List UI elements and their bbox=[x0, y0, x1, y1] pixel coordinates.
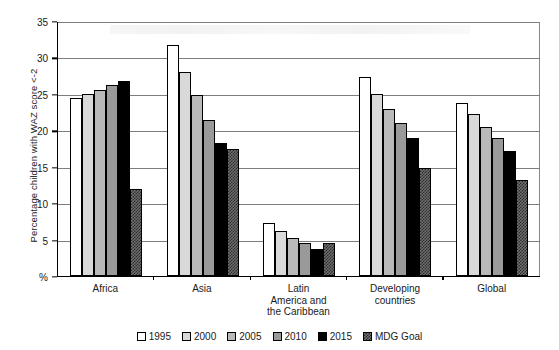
legend-label: MDG Goal bbox=[375, 331, 422, 342]
bar[interactable] bbox=[504, 151, 516, 276]
y-tick-mark bbox=[52, 203, 57, 204]
x-axis-label: Africa bbox=[57, 283, 154, 318]
x-axis-label-line: Developing bbox=[347, 283, 444, 295]
legend-item[interactable]: 2015 bbox=[318, 331, 352, 342]
bar[interactable] bbox=[395, 123, 407, 276]
legend-swatch bbox=[273, 332, 282, 341]
y-tick-label: 20 bbox=[8, 126, 48, 137]
legend-label: 2010 bbox=[285, 331, 307, 342]
bar[interactable] bbox=[287, 238, 299, 276]
x-axis-label-line: Asia bbox=[154, 283, 251, 295]
bar-group bbox=[58, 22, 154, 276]
bar-groups bbox=[58, 22, 540, 276]
y-tick-label: 10 bbox=[8, 199, 48, 210]
bar[interactable] bbox=[191, 95, 203, 276]
legend-label: 2000 bbox=[194, 331, 216, 342]
x-axis-label: Asia bbox=[154, 283, 251, 318]
bar-set bbox=[167, 22, 239, 276]
y-tick-mark bbox=[52, 58, 57, 59]
x-tick-mark bbox=[442, 276, 443, 280]
bar[interactable] bbox=[263, 223, 275, 276]
bar[interactable] bbox=[359, 77, 371, 276]
bar[interactable] bbox=[383, 109, 395, 276]
bar[interactable] bbox=[419, 168, 431, 276]
bar-group bbox=[154, 22, 250, 276]
x-axis-label-line: America and bbox=[250, 295, 347, 307]
legend-swatch bbox=[137, 332, 146, 341]
x-axis-labels: AfricaAsiaLatinAmerica andthe CaribbeanD… bbox=[57, 283, 540, 318]
legend-label: 2005 bbox=[239, 331, 261, 342]
legend-item[interactable]: 2000 bbox=[182, 331, 216, 342]
bar[interactable] bbox=[167, 45, 179, 276]
y-tick-label: % bbox=[8, 272, 48, 283]
bar[interactable] bbox=[480, 127, 492, 276]
legend-item[interactable]: 2010 bbox=[273, 331, 307, 342]
bar[interactable] bbox=[227, 149, 239, 277]
bar[interactable] bbox=[106, 85, 118, 276]
bar-group bbox=[347, 22, 443, 276]
x-axis-label-line: the Caribbean bbox=[250, 306, 347, 318]
bar[interactable] bbox=[179, 72, 191, 276]
x-axis-label: Developingcountries bbox=[347, 283, 444, 318]
x-tick-mark bbox=[153, 276, 154, 280]
bar[interactable] bbox=[468, 114, 480, 276]
legend-item[interactable]: 1995 bbox=[137, 331, 171, 342]
bar-set bbox=[70, 22, 142, 276]
bar[interactable] bbox=[516, 180, 528, 276]
bar-set bbox=[263, 22, 335, 276]
legend-swatch bbox=[363, 332, 372, 341]
legend-item[interactable]: MDG Goal bbox=[363, 331, 422, 342]
bar-set bbox=[456, 22, 528, 276]
legend-swatch bbox=[318, 332, 327, 341]
x-axis-label-line: Global bbox=[443, 283, 540, 295]
y-tick-label: 15 bbox=[8, 162, 48, 173]
legend-label: 1995 bbox=[149, 331, 171, 342]
x-axis-label: Global bbox=[443, 283, 540, 318]
bar[interactable] bbox=[456, 103, 468, 276]
bar[interactable] bbox=[82, 94, 94, 276]
y-tick-mark bbox=[52, 131, 57, 132]
x-axis-label-line: Latin bbox=[250, 283, 347, 295]
bar[interactable] bbox=[118, 81, 130, 276]
bar[interactable] bbox=[323, 243, 335, 277]
bar-chart: Percentage children with WAZ score <-2 %… bbox=[0, 0, 559, 350]
plot-area bbox=[57, 22, 540, 277]
x-axis-label: LatinAmerica andthe Caribbean bbox=[250, 283, 347, 318]
y-tick-mark bbox=[52, 21, 57, 22]
y-tick-label: 5 bbox=[8, 235, 48, 246]
bar[interactable] bbox=[215, 143, 227, 276]
x-axis-label-line: Africa bbox=[57, 283, 154, 295]
x-tick-mark bbox=[250, 276, 251, 280]
y-tick-mark bbox=[52, 167, 57, 168]
bar[interactable] bbox=[203, 120, 215, 276]
bar[interactable] bbox=[70, 98, 82, 276]
legend-swatch bbox=[182, 332, 191, 341]
x-axis-label-line: countries bbox=[347, 295, 444, 307]
y-tick-label: 25 bbox=[8, 89, 48, 100]
y-tick-label: 35 bbox=[8, 17, 48, 28]
chart-legend: 19952000200520102015MDG Goal bbox=[0, 331, 559, 342]
bar-group bbox=[444, 22, 540, 276]
y-tick-mark bbox=[52, 94, 57, 95]
bar[interactable] bbox=[299, 243, 311, 276]
bar[interactable] bbox=[275, 231, 287, 276]
legend-label: 2015 bbox=[330, 331, 352, 342]
y-tick-label: 30 bbox=[8, 53, 48, 64]
bar[interactable] bbox=[311, 249, 323, 276]
legend-swatch bbox=[227, 332, 236, 341]
bar-group bbox=[251, 22, 347, 276]
y-axis-title: Percentage children with WAZ score <-2 bbox=[28, 26, 39, 286]
x-tick-mark bbox=[346, 276, 347, 280]
bar[interactable] bbox=[371, 94, 383, 276]
bar[interactable] bbox=[94, 90, 106, 276]
bar-set bbox=[359, 22, 431, 276]
bar[interactable] bbox=[407, 138, 419, 276]
y-tick-mark bbox=[52, 276, 57, 277]
y-tick-mark bbox=[52, 240, 57, 241]
legend-item[interactable]: 2005 bbox=[227, 331, 261, 342]
bar[interactable] bbox=[130, 189, 142, 276]
bar[interactable] bbox=[492, 138, 504, 276]
